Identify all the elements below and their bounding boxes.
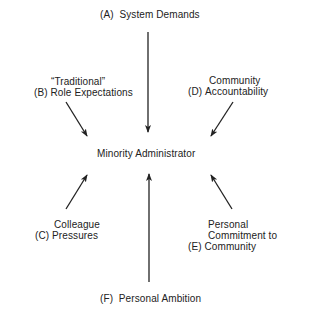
force-a-label: (A) System Demands bbox=[100, 9, 200, 20]
force-e-label: Personal Commitment to (E) Community bbox=[188, 219, 277, 252]
force-d-label: Community (D) Accountability bbox=[188, 75, 268, 97]
force-f-label: (F) Personal Ambition bbox=[100, 293, 201, 304]
force-c-label: Colleague (C) Pressures bbox=[35, 219, 100, 241]
arrow-e bbox=[211, 175, 232, 209]
arrow-b bbox=[66, 102, 87, 136]
force-b-label: “Traditional” (B) Role Expectations bbox=[34, 76, 133, 98]
arrow-c bbox=[66, 175, 87, 209]
arrow-d bbox=[211, 102, 233, 136]
center-label: Minority Administrator bbox=[97, 148, 195, 159]
